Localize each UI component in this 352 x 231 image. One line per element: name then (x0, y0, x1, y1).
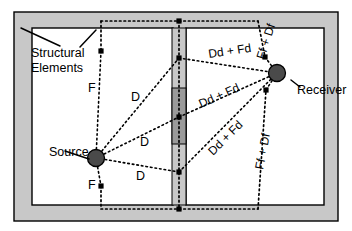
junction-partition-middle (176, 114, 181, 119)
structural-elements-label-line2: Elements (31, 61, 83, 75)
structural-elements-label-line1: Structural (31, 46, 85, 60)
junction-partition-top (176, 18, 181, 23)
junction-partition-lower (176, 169, 181, 174)
flanking-transmission-diagram: Structural Elements Source Receiver F F … (0, 0, 352, 231)
junction-right-bottom (263, 87, 268, 92)
path-label-d-lower: D (136, 169, 145, 183)
path-label-d-middle: D (140, 135, 149, 149)
junction-left-top (98, 48, 103, 53)
junction-partition-bottom (176, 206, 181, 211)
receiver-marker (269, 65, 286, 82)
source-marker (88, 150, 105, 167)
path-label-f-bottom: F (88, 178, 96, 192)
source-label: Source (49, 145, 89, 159)
junction-partition-upper (176, 55, 181, 60)
path-label-d-upper: D (131, 90, 140, 104)
receiver-label: Receiver (297, 83, 346, 97)
junction-left-bottom (98, 183, 103, 188)
path-label-f-top: F (88, 81, 96, 95)
figure-canvas: Structural Elements Source Receiver F F … (0, 0, 352, 231)
